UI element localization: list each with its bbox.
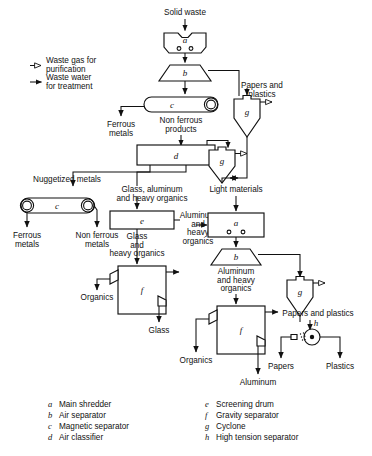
flow-f-right-organics [196, 319, 209, 352]
flow-d-glass-al [137, 165, 186, 186]
legend-waste-water-line2: for treatment [46, 82, 93, 91]
key-name-e: Screening drum [216, 400, 274, 409]
process-flow-diagram: Waste gas for purification Waste water f… [0, 0, 372, 456]
key-name-d: Air classifier [59, 433, 103, 442]
key-name-f: Gravity separator [216, 411, 279, 420]
unit-letter-g-mid: g [220, 156, 225, 166]
flow-f-left-organics [97, 279, 110, 290]
unit-letter-a-right: a [234, 218, 239, 228]
label-organics-left: Organics [81, 293, 114, 302]
unit-gravity-separator-left: f [110, 266, 166, 314]
flow-non-ferrous-left [94, 206, 97, 228]
label-solid-waste: Solid waste [164, 8, 206, 17]
flow-b-to-cyclone-top [208, 71, 239, 97]
unit-air-separator-right: b [211, 249, 261, 265]
unit-letter-c-top: c [170, 100, 174, 110]
unit-magnetic-separator-top: c [144, 97, 218, 112]
label-papers-plastics-top-2: plastics [248, 90, 275, 99]
unit-letter-g-bottom-right: g [298, 287, 303, 297]
key-letter-c: c [48, 421, 52, 431]
label-papers-out: Papers [268, 362, 294, 371]
unit-key-column-left: a Main shredder b Air separator c Magnet… [48, 399, 129, 442]
unit-letter-e: e [140, 216, 144, 226]
legend-arrow-waste-water: Waste water for treatment [30, 73, 93, 91]
label-glass-al-2: and heavy organics [116, 194, 187, 203]
label-al-heavy-r4: organics [183, 237, 214, 246]
unit-letter-c-left: c [55, 201, 59, 211]
unit-letter-g-top-right: g [245, 107, 250, 117]
key-name-c: Magnetic separator [59, 422, 129, 431]
key-letter-b: b [48, 410, 52, 420]
key-name-g: Cyclone [216, 422, 246, 431]
flow-h-papers [281, 337, 291, 358]
unit-gravity-separator-right: f [209, 306, 265, 354]
label-nuggetized-metals: Nuggetized metals [33, 175, 101, 184]
label-plastics-out: Plastics [326, 362, 354, 371]
unit-letter-d: d [174, 151, 179, 161]
key-name-a: Main shredder [59, 400, 112, 409]
key-name-h: High tension separator [216, 433, 299, 442]
label-organics-right: Organics [180, 356, 213, 365]
unit-letter-h: h [314, 318, 319, 328]
unit-key-column-right: e Screening drum f Gravity separator g C… [205, 399, 299, 442]
unit-screening-drum: e [110, 211, 174, 229]
key-letter-a: a [48, 399, 52, 409]
key-letter-d: d [48, 432, 53, 442]
unit-main-shredder-top: a [164, 33, 206, 53]
legend-arrow-waste-gas: Waste gas for purification [30, 56, 96, 74]
key-letter-g: g [205, 421, 209, 431]
label-non-ferrous-left-2: metals [85, 240, 109, 249]
unit-main-shredder-right: a [208, 213, 264, 237]
unit-cyclone-top-right: g [234, 96, 260, 138]
flow-ferrous-top [121, 107, 144, 117]
label-ferrous-left-2: metals [15, 240, 39, 249]
key-letter-e: e [205, 399, 209, 409]
legend-waste-water-line1: Waste water [46, 73, 91, 82]
label-aluminum-out: Aluminum [240, 378, 277, 387]
unit-letter-a-top: a [183, 35, 188, 45]
legend-waste-gas-line1: Waste gas for [46, 56, 96, 65]
unit-air-classifier: d [137, 145, 215, 165]
label-al-heavy-l3: organics [221, 284, 252, 293]
flow-b-right-to-cyclone [258, 255, 300, 278]
label-ferrous-top-2: metals [109, 129, 133, 138]
unit-letter-b-top: b [183, 68, 188, 78]
label-light-materials: Light materials [209, 185, 262, 194]
key-letter-f: f [205, 410, 209, 420]
key-name-b: Air separator [59, 411, 106, 420]
flow-h-plastics [320, 337, 340, 358]
unit-air-separator-top: b [159, 65, 211, 81]
unit-high-tension-separator: h [291, 318, 320, 345]
unit-letter-b-right: b [234, 252, 239, 262]
label-non-ferrous-products-2: products [165, 125, 196, 134]
unit-magnetic-separator-left: c [20, 198, 94, 213]
label-papers-plastics-bottom: Papers and plastics [282, 309, 353, 318]
label-glass-out: Glass [149, 326, 170, 335]
key-letter-h: h [205, 432, 209, 442]
